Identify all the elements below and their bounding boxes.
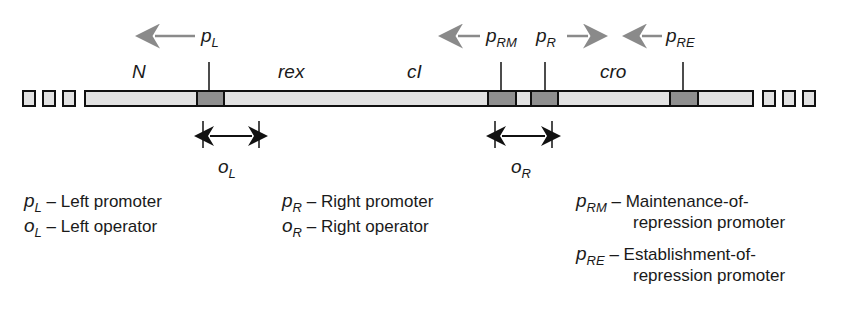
gene-cI-label: cI [407, 61, 422, 83]
pRE-region [670, 91, 698, 106]
oR-label: oR [511, 157, 531, 180]
gene-rex-label: rex [278, 61, 304, 83]
gene-N-label: N [132, 61, 146, 83]
pRM-region [488, 91, 516, 106]
legend-oR: oR – Right operator [282, 215, 429, 244]
left-continuation-boxes [23, 91, 75, 106]
gene-cro-label: cro [600, 61, 626, 83]
pL-label: pL [201, 26, 219, 49]
legend-pRM-cont: repression promoter [633, 212, 785, 234]
legend-oL: oL – Left operator [24, 215, 157, 244]
pL-region [197, 91, 224, 106]
legend-pRE-cont: repression promoter [633, 265, 785, 287]
oL-label: oL [218, 157, 236, 180]
pRE-label: pRE [666, 26, 695, 49]
pR-region [531, 91, 558, 106]
pRM-label: pRM [486, 26, 517, 49]
pR-label: pR [536, 26, 556, 49]
right-continuation-boxes [763, 91, 815, 106]
dna-bar [85, 91, 753, 106]
